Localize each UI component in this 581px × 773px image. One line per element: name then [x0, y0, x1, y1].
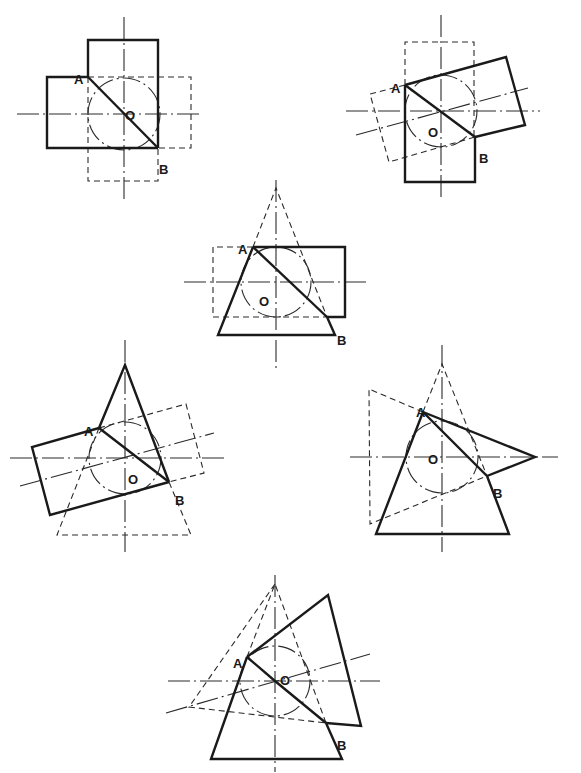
visible-outline [47, 77, 158, 148]
point-label-b: B [479, 151, 488, 166]
point-label-a: A [238, 242, 248, 257]
point-label-b: B [175, 493, 184, 508]
point-label-a: A [233, 656, 243, 671]
visible-outline [211, 657, 342, 759]
fig-3: AOB [184, 180, 366, 372]
point-label-o: O [280, 673, 290, 688]
point-label-o: O [428, 452, 438, 467]
point-label-o: O [259, 294, 269, 309]
diagram-group: AOBAOBAOBAOBAOBAOB [10, 15, 558, 772]
point-label-a: A [416, 405, 426, 420]
fig-5: AOB [350, 345, 558, 552]
hidden-outline [99, 404, 204, 482]
hidden-outline [88, 77, 158, 181]
center-axis-line [166, 654, 370, 713]
visible-outline [32, 428, 169, 515]
point-label-o: O [428, 125, 438, 140]
visible-outline [405, 85, 475, 182]
fig-6: AOB [166, 575, 380, 772]
point-label-a: A [391, 81, 401, 96]
point-label-a: A [84, 424, 94, 439]
point-label-o: O [128, 472, 138, 487]
point-label-o: O [125, 108, 135, 123]
visible-outline [88, 77, 158, 148]
hidden-outline [405, 42, 474, 137]
point-label-b: B [493, 486, 502, 501]
geometric-construction-figure: AOBAOBAOBAOBAOBAOB [0, 0, 581, 773]
visible-outline [88, 40, 158, 148]
point-label-b: B [337, 738, 346, 753]
fig-2: AOB [346, 15, 540, 200]
fig-4: AOB [10, 340, 228, 552]
hidden-outline [189, 584, 326, 723]
point-label-a: A [74, 72, 84, 87]
hidden-outline [88, 77, 191, 148]
fig-1: AOB [17, 17, 200, 200]
point-label-b: B [159, 162, 168, 177]
point-label-b: B [337, 333, 346, 348]
